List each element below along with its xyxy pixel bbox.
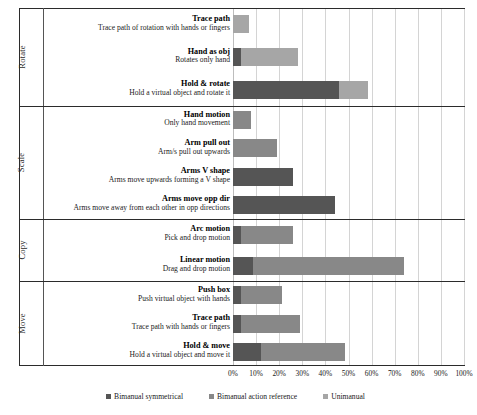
bar-segment-bimanual-symmetrical <box>233 286 241 304</box>
group-column-divider <box>43 219 44 281</box>
bar-row-description: Push virtual object with hands <box>46 295 230 303</box>
bar-segment-bimanual-symmetrical <box>233 81 339 99</box>
x-tick-label: 60% <box>359 369 385 378</box>
group-column-divider <box>43 281 44 366</box>
legend-label: Bimanual symmetrical <box>114 392 183 401</box>
group-label-copy: Copy <box>0 219 44 281</box>
bar-row-description: Arms move away from each other in opp di… <box>46 204 230 212</box>
gridline-60 <box>372 9 373 365</box>
bar-stack <box>233 81 368 99</box>
legend-label: Unimanual <box>331 392 365 401</box>
legend-swatch-icon <box>209 394 214 399</box>
legend-item-bimanual-symmetrical[interactable]: Bimanual symmetrical <box>106 392 183 401</box>
bar-row-label: Arc motionPick and drop motion <box>46 225 230 242</box>
bar-row-label: Trace pathTrace path of rotation with ha… <box>46 15 230 32</box>
x-tick-label: 90% <box>428 369 454 378</box>
bar-segment-bimanual-symmetrical <box>233 343 261 361</box>
bar-stack <box>233 196 335 214</box>
bar-row-label: Arms V shapeArms move upwards forming a … <box>46 167 230 184</box>
legend-swatch-icon <box>323 394 328 399</box>
group-label-scale: Scale <box>0 106 44 219</box>
bar-segment-bimanual-symmetrical <box>233 48 241 66</box>
group-separator <box>19 106 465 107</box>
bar-segment-bimanual-symmetrical <box>233 315 241 333</box>
x-tick-label: 80% <box>405 369 431 378</box>
gridline-90 <box>441 9 442 365</box>
x-tick-label: 70% <box>382 369 408 378</box>
bar-row-label: Arm pull outArm/s pull out upwards <box>46 139 230 156</box>
bar-row-description: Trace path with hands or fingers <box>46 323 230 331</box>
legend-item-unimanual[interactable]: Unimanual <box>323 392 365 401</box>
bar-row-label: Arms move opp dirArms move away from eac… <box>46 195 230 212</box>
x-tick-label: 10% <box>243 369 269 378</box>
bar-stack <box>233 286 282 304</box>
bar-row-label: Linear motionDrag and drop motion <box>46 256 230 273</box>
bar-stack <box>233 15 249 33</box>
x-tick-label: 30% <box>289 369 315 378</box>
bar-segment-bimanual-action-reference <box>233 139 277 157</box>
group-column-divider <box>43 8 44 106</box>
bar-stack <box>233 226 293 244</box>
bar-row-description: Arms move upwards forming a V shape <box>46 176 230 184</box>
bar-stack <box>233 111 251 129</box>
bar-row-label: Trace pathTrace path with hands or finge… <box>46 314 230 331</box>
legend-label: Bimanual action reference <box>217 392 297 401</box>
bar-row-description: Hold a virtual object and move it <box>46 351 230 359</box>
bar-stack <box>233 315 300 333</box>
gridline-30 <box>302 9 303 365</box>
bar-stack <box>233 48 298 66</box>
gridline-80 <box>418 9 419 365</box>
bar-row-label: Hand motionOnly hand movement <box>46 111 230 128</box>
bar-segment-bimanual-symmetrical <box>233 257 253 275</box>
gridline-100 <box>464 9 465 365</box>
bar-segment-bimanual-symmetrical <box>233 226 241 244</box>
bar-row-description: Drag and drop motion <box>46 265 230 273</box>
x-tick-label: 20% <box>266 369 292 378</box>
x-tick-label: 40% <box>312 369 338 378</box>
bar-row-description: Arm/s pull out upwards <box>46 148 230 156</box>
bar-row-label: Push boxPush virtual object with hands <box>46 286 230 303</box>
gridline-50 <box>349 9 350 365</box>
bar-stack <box>233 139 277 157</box>
bar-segment-bimanual-action-reference <box>233 111 251 129</box>
group-label-rotate: Rotate <box>0 8 44 106</box>
bar-segment-bimanual-action-reference <box>253 257 404 275</box>
bar-segment-bimanual-action-reference <box>241 286 281 304</box>
bar-segment-bimanual-symmetrical <box>233 196 335 214</box>
bar-stack <box>233 168 293 186</box>
x-tick-label: 0% <box>220 369 246 378</box>
bar-row-description: Rotates only hand <box>46 56 230 64</box>
group-separator <box>19 281 465 282</box>
bar-row-label: Hold & rotateHold a virtual object and r… <box>46 80 230 97</box>
legend-item-bimanual-action-reference[interactable]: Bimanual action reference <box>209 392 297 401</box>
group-column-divider <box>43 106 44 219</box>
legend-swatch-icon <box>106 394 111 399</box>
gridline-40 <box>325 9 326 365</box>
bar-segment-unimanual <box>339 81 368 99</box>
bar-row-description: Only hand movement <box>46 119 230 127</box>
bar-stack <box>233 343 345 361</box>
bar-row-label: Hand as objRotates only hand <box>46 48 230 65</box>
chart-legend: Bimanual symmetricalBimanual action refe… <box>0 392 471 401</box>
bar-segment-bimanual-action-reference <box>261 343 345 361</box>
x-tick-label: 50% <box>336 369 362 378</box>
bar-row-label: Hold & moveHold a virtual object and mov… <box>46 342 230 359</box>
bar-row-description: Hold a virtual object and rotate it <box>46 89 230 97</box>
bar-segment-bimanual-symmetrical <box>233 168 293 186</box>
bar-segment-unimanual <box>233 15 249 33</box>
group-separator <box>19 219 465 220</box>
group-label-move: Move <box>0 281 44 366</box>
bar-segment-bimanual-action-reference <box>241 226 293 244</box>
bar-row-description: Trace path of rotation with hands or fin… <box>46 24 230 32</box>
bar-segment-bimanual-action-reference <box>241 315 300 333</box>
bar-segment-unimanual <box>241 48 298 66</box>
gridline-70 <box>395 9 396 365</box>
bar-stack <box>233 257 404 275</box>
bar-row-description: Pick and drop motion <box>46 234 230 242</box>
x-tick-label: 100% <box>451 369 477 378</box>
